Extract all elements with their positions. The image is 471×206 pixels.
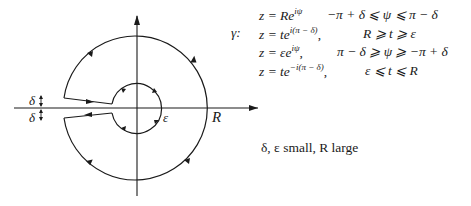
delta-label-lower: δ [29,110,35,126]
real-axis-arrow-icon [249,105,258,111]
definition-row-2-range: R ⩾ t ⩾ ε [363,25,416,42]
gamma-label: γ: [231,25,241,41]
definition-row-1-range: −π + δ ⩽ ψ ⩽ π − δ [327,6,438,23]
conditions-note: δ, ε small, R large [261,140,358,156]
delta-label-upper: δ [29,93,35,109]
definition-row-3-range: π − δ ⩾ ψ ⩾ −π + δ [337,43,448,60]
R-label: R [212,109,221,126]
row-2-exponent: i(π − δ) [290,25,318,35]
row-3-lhs: z = εe [259,45,291,60]
row-1-lhs: z = Re [259,8,294,23]
epsilon-label: ε [163,110,168,126]
inner-arc-arrow-icons [121,88,159,131]
imaginary-axis-arrow-icon [134,15,140,25]
row-4-exponent: −i(π − δ) [290,62,324,72]
row-1-exponent: iψ [294,6,302,16]
definition-row-1: z = Reiψ [259,6,302,24]
row-4-lhs: z = te [259,64,290,79]
row-4-tail: , [324,64,327,79]
row-3-tail: , [300,45,303,60]
definition-row-3: z = εeiψ, [259,43,303,61]
row-2-tail: , [318,27,321,42]
row-2-lhs: z = te [259,27,290,42]
definition-row-4-range: ε ⩽ t ⩽ R [365,62,418,79]
definition-row-2: z = tei(π − δ), [259,25,321,43]
definition-row-4: z = te−i(π − δ), [259,62,327,80]
row-3-exponent: iψ [291,43,299,53]
